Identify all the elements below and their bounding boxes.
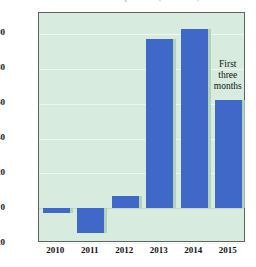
bar-2013 xyxy=(146,39,173,208)
y-axis-tick-80: 80 xyxy=(0,63,5,72)
plot-inner xyxy=(39,13,244,241)
y-axis-tick-0: 0 xyxy=(0,203,5,212)
y-axis-tick--20: -20 xyxy=(0,238,5,247)
gridline-40 xyxy=(39,139,244,140)
bar-2010 xyxy=(43,208,70,213)
chart-title: Profit or loss from operations (in milli… xyxy=(0,0,256,2)
gridline--20 xyxy=(39,243,244,244)
bar-2011 xyxy=(77,208,104,232)
annotation-line-1: three xyxy=(198,70,256,81)
bar-2015 xyxy=(215,100,242,208)
plot-area xyxy=(38,12,245,242)
x-axis-tick-2015: 2015 xyxy=(208,246,248,255)
y-axis-tick-100: $100 xyxy=(0,28,5,37)
y-axis-tick-60: 60 xyxy=(0,98,5,107)
y-axis-tick-20: 20 xyxy=(0,168,5,177)
gridline-20 xyxy=(39,173,244,174)
gridline-60 xyxy=(39,104,244,105)
bar-2014 xyxy=(181,29,208,209)
annotation-first-three-months: Firstthreemonths xyxy=(198,59,256,92)
y-axis-tick-40: 40 xyxy=(0,133,5,142)
annotation-line-2: months xyxy=(198,81,256,92)
gridline-100 xyxy=(39,34,244,35)
bar-2012 xyxy=(112,196,139,208)
annotation-line-0: First xyxy=(198,59,256,70)
